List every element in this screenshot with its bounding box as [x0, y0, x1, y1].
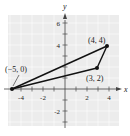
- point-a-marker: [10, 87, 14, 91]
- y-tick-label: 4: [57, 42, 61, 50]
- point-b-marker: [105, 44, 109, 48]
- x-tick-label: -4: [18, 94, 24, 102]
- point-c-marker: [95, 66, 99, 70]
- triangle-graph-figure: -4 -2 2 4 x 6 4 -2 y: [0, 0, 130, 136]
- point-b-label: (4, 4): [88, 36, 106, 45]
- point-c-label: (3, 2): [86, 74, 104, 83]
- y-tick-label: 6: [57, 20, 61, 28]
- point-a-label: (−5, 0): [5, 65, 27, 74]
- coordinate-plane: -4 -2 2 4 x 6 4 -2 y: [0, 0, 130, 136]
- x-tick-label: 4: [107, 94, 111, 102]
- y-tick-label: -2: [54, 108, 60, 116]
- x-tick-label: 2: [85, 94, 89, 102]
- x-tick-label: -2: [40, 94, 46, 102]
- y-axis-label: y: [62, 2, 67, 11]
- x-axis-label: x: [123, 85, 128, 94]
